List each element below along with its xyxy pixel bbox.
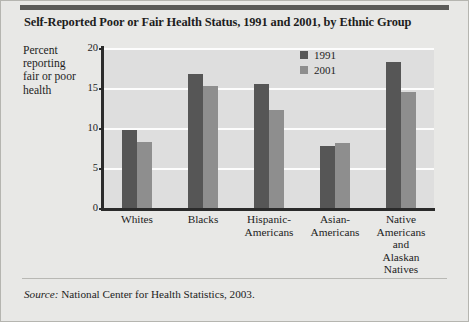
y-tick-mark-20 (99, 48, 103, 50)
y-tick-mark-0 (99, 208, 103, 210)
y-tick-label-5: 5 (74, 162, 98, 173)
legend-swatch-1991 (300, 51, 308, 59)
legend-item-1991: 1991 (300, 49, 336, 61)
bar-whites-2001 (137, 142, 152, 208)
bar-hispanic-americans-1991 (188, 74, 203, 208)
y-tick-label-20: 20 (74, 42, 98, 53)
y-tick-mark-5 (99, 168, 103, 170)
source-note: Source: National Center for Health Stati… (24, 288, 255, 300)
legend-swatch-2001 (300, 66, 308, 74)
y-tick-mark-10 (99, 128, 103, 130)
bar-native-americans-and-alaskan-natives-2001 (401, 92, 416, 208)
bar-asian-americans-2001 (335, 143, 350, 208)
x-axis-line (101, 208, 435, 211)
gridline-20 (104, 48, 434, 50)
y-tick-label-10: 10 (74, 122, 98, 133)
bar-asian-americans-1991 (320, 146, 335, 208)
gridline-15 (104, 88, 434, 90)
y-tick-label-15: 15 (74, 82, 98, 93)
x-axis-label-4-line-3: Alaskan (361, 251, 441, 264)
bar-native-americans-and-alaskan-natives-1991 (386, 62, 401, 208)
bar-blacks-1991 (254, 84, 269, 208)
y-tick-mark-15 (99, 88, 103, 90)
y-axis-tick-labels: 05101520 (72, 0, 98, 322)
legend-label-2001: 2001 (314, 64, 336, 76)
x-axis-label-4: NativeAmericansandAlaskanNatives (361, 213, 441, 276)
y-tick-label-0: 0 (74, 202, 98, 213)
plot-area (104, 48, 434, 208)
bar-whites-1991 (122, 130, 137, 208)
source-divider (22, 278, 447, 279)
x-axis-label-4-line-2: and (361, 238, 441, 251)
chart-figure: Self-Reported Poor or Fair Health Status… (0, 0, 469, 322)
legend-item-2001: 2001 (300, 64, 336, 76)
source-value: National Center for Health Statistics, 2… (58, 288, 254, 300)
chart-legend: 19912001 (300, 49, 336, 79)
bar-hispanic-americans-2001 (203, 86, 218, 208)
source-label: Source: (24, 288, 58, 300)
x-axis-label-4-line-0: Native (361, 213, 441, 226)
legend-label-1991: 1991 (314, 49, 336, 61)
x-axis-label-4-line-4: Natives (361, 263, 441, 276)
x-axis-label-4-line-1: Americans (361, 226, 441, 239)
bar-blacks-2001 (269, 110, 284, 208)
